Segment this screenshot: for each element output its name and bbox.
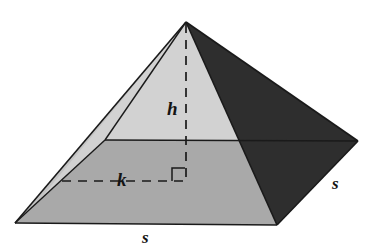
apothem-label: k — [117, 170, 127, 189]
pyramid-diagram-svg — [0, 0, 369, 249]
height-label: h — [167, 99, 178, 118]
base-edge-right-label: s — [332, 175, 339, 192]
pyramid-figure: h k s s — [0, 0, 369, 249]
base-edge-back-right — [105, 140, 358, 141]
base-edge-front-label: s — [142, 229, 149, 246]
